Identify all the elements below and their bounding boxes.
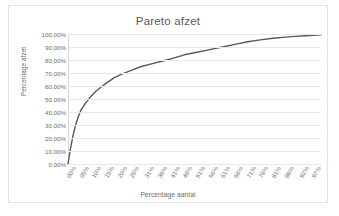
gridline [68, 34, 321, 35]
y-tick-label: 60,00% [25, 83, 66, 90]
y-tick-label: 90,00% [25, 44, 66, 51]
x-tick-label: 05% [78, 165, 90, 179]
y-tick-label: 20,00% [25, 135, 66, 142]
x-tick-label: 41% [169, 165, 181, 179]
gridline [68, 99, 321, 100]
y-tick-label: 30,00% [25, 122, 66, 129]
x-axis-tick-labels: 00%05%10%15%20%25%31%36%41%46%51%56%61%6… [68, 165, 321, 193]
x-axis-title: Percentage aantal [9, 191, 327, 198]
x-tick-label: 10% [90, 165, 102, 179]
gridline [68, 73, 321, 74]
chart-container: Pareto afzet Percentage afzet 100,00%90,… [8, 5, 328, 203]
x-tick-label: 61% [219, 165, 231, 179]
gridline [68, 112, 321, 113]
x-tick-label: 51% [194, 165, 206, 179]
y-tick-label: 10,00% [25, 148, 66, 155]
gridline [68, 125, 321, 126]
x-tick-label: 36% [156, 165, 168, 179]
x-tick-label: 56% [207, 165, 219, 179]
y-tick-label: 70,00% [25, 70, 66, 77]
x-tick-label: 31% [143, 165, 155, 179]
x-tick-label: 71% [245, 165, 257, 179]
y-tick-label: 0,00% [25, 161, 66, 168]
x-tick-label: 25% [128, 165, 140, 179]
gridline [68, 86, 321, 87]
x-tick-label: 66% [232, 165, 244, 179]
y-tick-label: 100,00% [25, 31, 66, 38]
x-tick-label: 00% [65, 165, 77, 179]
x-tick-label: 20% [115, 165, 127, 179]
x-tick-label: 46% [181, 165, 193, 179]
plot-area [68, 34, 321, 164]
gridline [68, 60, 321, 61]
x-tick-label: 15% [103, 165, 115, 179]
gridline [68, 151, 321, 152]
x-tick-label: 76% [257, 165, 269, 179]
gridline [68, 47, 321, 48]
x-tick-label: 81% [270, 165, 282, 179]
x-tick-label: 92% [298, 165, 310, 179]
x-tick-label: 86% [282, 165, 294, 179]
y-axis-tick-labels: 100,00%90,00%80,00%70,00%60,00%50,00%40,… [25, 34, 66, 164]
y-tick-label: 40,00% [25, 109, 66, 116]
y-tick-label: 80,00% [25, 57, 66, 64]
x-tick-label: 97% [310, 165, 322, 179]
y-tick-label: 50,00% [25, 96, 66, 103]
gridline [68, 138, 321, 139]
chart-title: Pareto afzet [9, 15, 327, 27]
